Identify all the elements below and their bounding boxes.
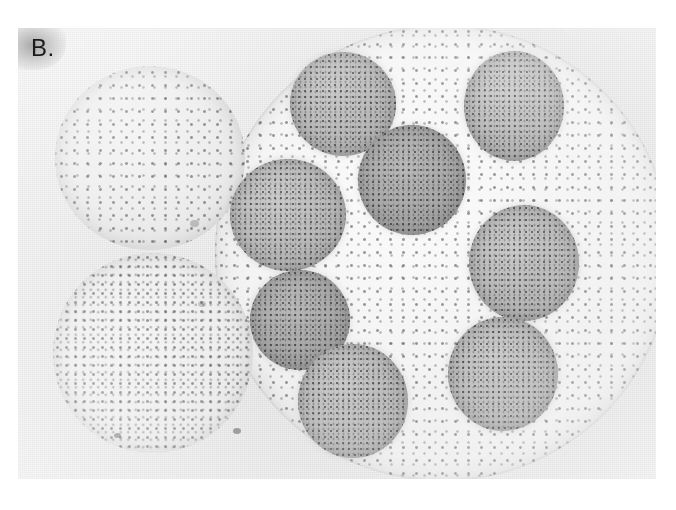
daughter-fringe	[293, 339, 413, 463]
sibling-upper-fringe	[50, 61, 250, 255]
daughter-fringe	[225, 154, 351, 276]
panel-label: B.	[31, 36, 55, 60]
debris-fleck	[190, 220, 199, 227]
daughter-colony-mid-left	[230, 159, 346, 271]
daughter-colony-center	[358, 125, 466, 235]
daughter-fringe	[353, 120, 471, 240]
daughter-fringe	[464, 200, 584, 326]
daughter-colony-bottom-center	[298, 344, 408, 458]
micrograph-figure: B.	[0, 0, 676, 510]
sibling-lower-fringe	[48, 248, 258, 458]
debris-fleck	[114, 433, 121, 438]
debris-fleck	[198, 301, 206, 307]
daughter-fringe	[443, 312, 563, 436]
daughter-fringe	[459, 46, 569, 166]
micrograph-plate	[18, 28, 656, 479]
sibling-colony-lower-left	[53, 253, 253, 453]
daughter-colony-top-right	[464, 51, 564, 161]
daughter-colony-right	[469, 205, 579, 321]
debris-fleck	[233, 428, 241, 434]
daughter-colony-lower-right	[448, 317, 558, 431]
sibling-colony-upper-left	[55, 66, 245, 250]
